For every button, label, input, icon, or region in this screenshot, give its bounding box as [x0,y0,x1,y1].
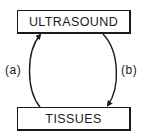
edge-label-b: (b) [121,63,137,77]
arrow-a-tissues-to-ultrasound [30,35,41,107]
tissues-node: TISSUES [17,107,131,131]
arrow-b-ultrasound-to-tissues [103,34,116,105]
ultrasound-label: ULTRASOUND [29,15,118,29]
tissues-label: TISSUES [45,112,101,126]
edge-label-a: (a) [5,63,21,77]
diagram-canvas: ULTRASOUND TISSUES (a) (b) [0,0,146,140]
ultrasound-node: ULTRASOUND [17,10,131,34]
